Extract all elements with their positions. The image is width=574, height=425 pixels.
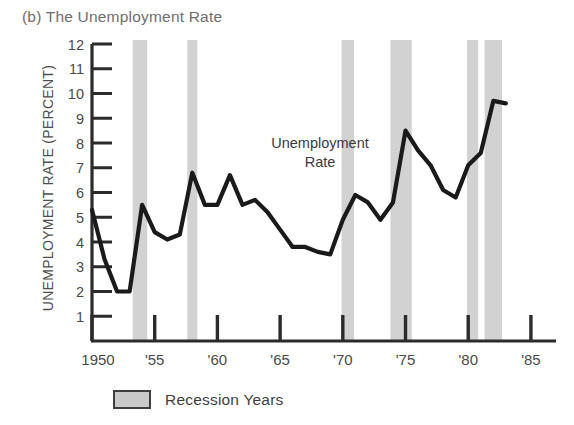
recession-band <box>133 40 147 341</box>
x-axis-tick-label: '80 <box>458 351 478 368</box>
chart-plot-area: 123456789101112 1950'55'60'65'70'75'80'8… <box>0 0 574 425</box>
recession-band <box>485 40 503 341</box>
x-axis-tick-label: '55 <box>145 351 165 368</box>
y-axis-tick-label: 3 <box>76 259 84 275</box>
legend-swatch-recession <box>113 390 151 409</box>
y-axis-tick-label: 5 <box>76 210 84 226</box>
unemployment-rate-figure: (b) The Unemployment Rate UNEMPLOYMENT R… <box>0 0 574 425</box>
y-axis-tick-label: 2 <box>76 284 84 300</box>
y-axis-tick-label: 7 <box>76 160 84 176</box>
y-axis-tick-label: 1 <box>76 309 84 325</box>
x-axis-tick-label: '70 <box>333 351 353 368</box>
x-axis-tick-label: '85 <box>521 351 541 368</box>
y-axis-tick-label: 6 <box>76 185 84 201</box>
y-axis-tick-label: 9 <box>76 111 84 127</box>
recession-band <box>342 40 355 341</box>
legend-label-recession: Recession Years <box>165 391 283 409</box>
x-axis-tick-label: '65 <box>270 351 290 368</box>
y-axis-tick-label: 8 <box>76 136 84 152</box>
y-axis-tick-label: 4 <box>76 235 84 251</box>
y-axis-tick-label: 11 <box>69 61 84 77</box>
x-axis-tick-label: '60 <box>208 351 228 368</box>
y-axis-tick-label: 12 <box>68 37 84 53</box>
y-axis-tick-label: 10 <box>68 86 84 102</box>
series-annotation-line2: Rate <box>305 154 336 170</box>
recession-band <box>467 40 478 341</box>
x-axis-tick-label: '75 <box>396 351 416 368</box>
legend: Recession Years <box>113 390 283 409</box>
y-axis-ticks-group: 123456789101112 <box>68 37 112 325</box>
x-axis-tick-label: 1950 <box>81 351 114 368</box>
unemployment-rate-line <box>92 101 506 292</box>
series-annotation-line1: Unemployment <box>271 135 369 151</box>
